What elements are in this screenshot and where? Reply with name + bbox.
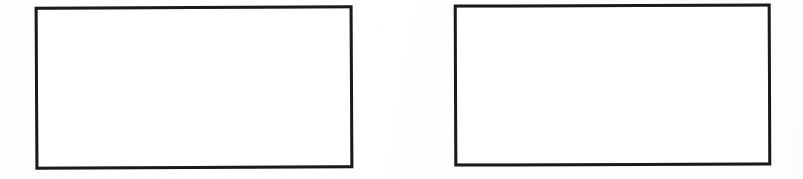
scanned-page: [0, 0, 803, 179]
empty-rectangle-left: [35, 5, 354, 170]
empty-rectangle-right: [454, 3, 772, 166]
rectangle-right-border: [454, 3, 772, 166]
rectangle-left-border: [35, 5, 354, 170]
